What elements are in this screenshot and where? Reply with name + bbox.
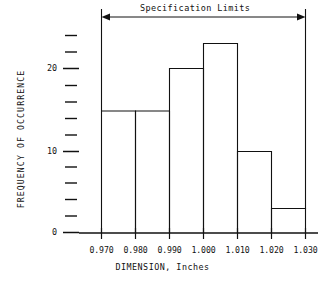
histogram-bar	[272, 209, 306, 234]
histogram-bar	[204, 44, 238, 234]
spec-limit-arrowhead-right-icon	[297, 14, 306, 21]
y-axis-title: FREQUENCY OF OCCURRENCE	[16, 64, 26, 214]
specification-limits-label: Specification Limits	[140, 3, 250, 13]
chart-canvas	[0, 0, 325, 282]
histogram-chart: Specification Limits FREQUENCY OF OCCURR…	[0, 0, 325, 282]
histogram-bars	[102, 44, 306, 234]
histogram-bar	[136, 111, 170, 233]
histogram-bar	[238, 152, 272, 234]
x-axis-title: DIMENSION, Inches	[0, 262, 325, 272]
y-tick-label-10: 10	[31, 146, 57, 156]
histogram-bar	[170, 69, 204, 234]
y-tick-label-0: 0	[31, 227, 57, 237]
x-tick-label-6: 1.030	[286, 245, 325, 255]
y-tick-label-20: 20	[31, 63, 57, 73]
histogram-bar	[102, 111, 136, 233]
spec-limit-arrowhead-left-icon	[102, 14, 111, 21]
y-axis-ticks	[63, 36, 79, 233]
